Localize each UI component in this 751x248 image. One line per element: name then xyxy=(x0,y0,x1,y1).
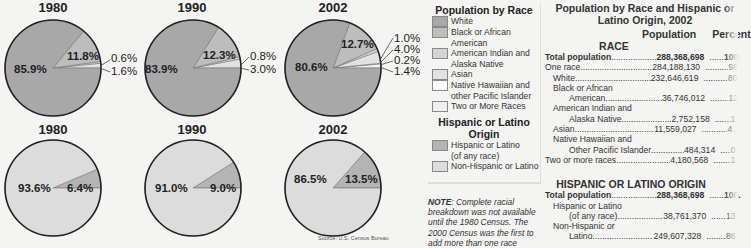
pie-label-hisp-1980-hisp: 6.4% xyxy=(67,182,93,194)
legend-label: Asian xyxy=(451,69,473,80)
pie-label-race-1980-aian: 0.6% xyxy=(111,52,137,64)
table-row: American ...............................… xyxy=(545,93,738,103)
pie-label-hisp-2002-non: 86.5% xyxy=(294,173,327,185)
pie-label-race-1980-asian: 1.6% xyxy=(111,65,137,77)
note: NOTE: Complete racial breakdown was not … xyxy=(428,197,540,248)
row-label: One race xyxy=(545,62,580,72)
row-population: 11,559,027 xyxy=(654,124,696,134)
row-label: Latino xyxy=(545,231,592,241)
legend-swatch xyxy=(432,69,448,80)
row-label: American Indian and xyxy=(545,103,632,113)
table-row: Native Hawaiian and xyxy=(545,134,738,144)
table-row: Alaska Native ..........................… xyxy=(545,114,738,124)
legend-label: Native Hawaiian and other Pacific Island… xyxy=(451,80,531,101)
dot-leader: ........................................… xyxy=(622,114,672,124)
row-label: Hispanic or Latino xyxy=(545,201,622,211)
dot-leader: .................. xyxy=(709,52,724,62)
row-population: 284,188,130 xyxy=(652,62,700,72)
source-credit: Source: U.S. Census Bureau xyxy=(318,235,389,241)
dot-leader: ........................................… xyxy=(611,52,656,62)
table-row: White ..................................… xyxy=(545,73,738,83)
table-row: One race ...............................… xyxy=(545,62,738,72)
legend-race-title: Population by Race xyxy=(428,4,540,16)
pie-charts: 85.9% 11.8% 0.6% 1.6% 83.9% 12.3% 0.8% 3… xyxy=(0,0,430,243)
col-population: Population xyxy=(642,28,696,40)
row-label: Total population xyxy=(545,190,611,200)
pie-label-race-1990-black: 12.3% xyxy=(203,49,236,61)
table-row: Black or African xyxy=(545,83,738,93)
legend-label: White xyxy=(451,16,473,27)
table-row: Other Pacific Islander .................… xyxy=(545,145,738,155)
legend: Population by Race WhiteBlack or African… xyxy=(428,4,541,184)
pie-label-race-1980-white: 85.9% xyxy=(14,63,47,75)
pie-label-race-2002-two: 1.4% xyxy=(394,65,420,77)
legend-race-item: Asian xyxy=(428,69,540,80)
pie-label-race-1990-asian: 3.0% xyxy=(250,63,276,75)
pie-label-hisp-1990-hisp: 9.0% xyxy=(210,182,236,194)
table-row: (of any race) ..........................… xyxy=(545,211,738,221)
row-population: 288,368,698 xyxy=(657,190,705,200)
legend-race-item: Black or African American xyxy=(428,27,540,48)
pie-label-race-1980-black: 11.8% xyxy=(67,50,99,62)
race-section-title: RACE xyxy=(545,40,683,52)
row-label: Black or African xyxy=(545,83,613,93)
table-row: Hispanic or Latino xyxy=(545,201,738,211)
table-header: Population Percent xyxy=(545,28,745,40)
row-population: 288,368,698 xyxy=(657,52,705,62)
pie-label-race-1990-aian: 0.8% xyxy=(250,50,276,62)
row-label: Alaska Native xyxy=(545,114,622,124)
dot-leader: ........................................… xyxy=(616,155,670,165)
row-population: 249,607,328 xyxy=(653,231,701,241)
legend-race-item: Native Hawaiian and other Pacific Island… xyxy=(428,80,540,101)
dot-leader: ........................................… xyxy=(592,231,653,241)
table-row: Latino .................................… xyxy=(545,231,738,241)
row-population: 2,752,158 xyxy=(671,114,709,124)
edge-fade xyxy=(724,0,738,243)
row-label: (of any race) xyxy=(545,211,617,221)
legend-race-item: Two or More Races xyxy=(428,101,540,112)
legend-swatch xyxy=(432,161,448,172)
pie-label-hisp-1990-non: 91.0% xyxy=(155,182,188,194)
table-row: American Indian and xyxy=(545,103,738,113)
legend-race-item: White xyxy=(428,16,540,27)
table-row: Total population .......................… xyxy=(545,52,738,62)
row-label: Two or more races xyxy=(545,155,616,165)
legend-hispanic-item: Hispanic or Latino (of any race) xyxy=(428,140,540,161)
legend-hispanic-item: Non-Hispanic or Latino xyxy=(428,161,540,172)
hispanic-section-title: HISPANIC OR LATINO ORIGIN xyxy=(545,178,717,190)
row-label: Other Pacific Islander xyxy=(545,145,651,155)
row-label: White xyxy=(545,73,575,83)
leader-line xyxy=(380,67,393,72)
pie-label-hisp-2002-hisp: 13.5% xyxy=(345,173,378,185)
row-population: 38,761,370 xyxy=(663,211,706,221)
legend-label: Non-Hispanic or Latino xyxy=(451,161,538,172)
dot-leader: ........................................… xyxy=(611,190,656,200)
row-label: Native Hawaiian and xyxy=(545,134,632,144)
pie-label-race-2002-white: 80.6% xyxy=(295,61,328,73)
table-row: Non-Hispanic or xyxy=(545,221,738,231)
table-row: Asian ..................................… xyxy=(545,124,738,134)
row-label: Non-Hispanic or xyxy=(545,221,615,231)
row-population: 4,180,568 xyxy=(670,155,708,165)
legend-label: Hispanic or Latino (of any race) xyxy=(451,140,520,161)
legend-swatch xyxy=(432,101,448,112)
pie-label-race-2002-black: 12.7% xyxy=(341,38,374,50)
row-label: Total population xyxy=(545,52,611,62)
row-population: 484,314 xyxy=(684,145,715,155)
legend-swatch xyxy=(432,16,448,27)
table-title: Population by Race and Hispanic or Latin… xyxy=(545,2,745,26)
pie-label-hisp-1980-non: 93.6% xyxy=(18,182,51,194)
population-table: Population by Race and Hispanic or Latin… xyxy=(545,2,745,242)
dot-leader: ........................................… xyxy=(651,145,684,155)
legend-label: Two or More Races xyxy=(451,101,526,112)
table-row: Total population .......................… xyxy=(545,190,738,200)
row-label: American xyxy=(545,93,605,103)
row-population: 232,646,619 xyxy=(651,73,699,83)
pie-label-race-1990-white: 83.9% xyxy=(145,63,178,75)
dot-leader: ........................................… xyxy=(617,211,663,221)
row-label: Asian xyxy=(545,124,575,134)
legend-race-item: American Indian and Alaska Native xyxy=(428,48,540,69)
legend-swatch xyxy=(432,27,448,38)
legend-swatch xyxy=(432,140,448,151)
legend-hispanic-title: Hispanic or Latino Origin xyxy=(428,116,540,140)
